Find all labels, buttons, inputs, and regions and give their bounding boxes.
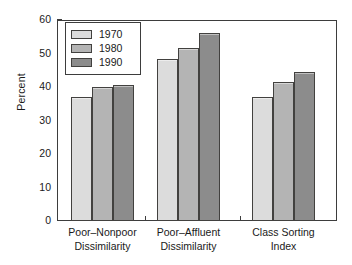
legend-swatch-1990 [71, 58, 92, 67]
bar-1990-group-1 [113, 85, 134, 221]
legend-swatch-1980 [71, 44, 92, 53]
bar-1980-group-3 [273, 82, 294, 221]
legend-swatch-1970 [71, 30, 92, 39]
legend-label-1990: 1990 [99, 57, 122, 68]
legend: 197019801990 [65, 22, 141, 75]
legend-item-1990: 1990 [71, 56, 135, 69]
legend-item-1980: 1980 [71, 42, 135, 55]
legend-item-1970: 1970 [71, 28, 135, 41]
bar-1990-group-3 [294, 72, 315, 221]
bar-1970-group-3 [252, 97, 273, 221]
legend-label-1970: 1970 [99, 29, 122, 40]
x-group-separator-tick-1 [145, 216, 146, 221]
bar-1970-group-2 [157, 59, 178, 221]
x-group-separator-tick-2 [240, 216, 241, 221]
bar-1970-group-1 [71, 97, 92, 221]
legend-label-1980: 1980 [99, 43, 122, 54]
bar-chart-figure: Percent 0102030405060 Poor–Nonpoor Dissi… [0, 0, 352, 265]
bar-1980-group-2 [178, 48, 199, 221]
bar-1980-group-1 [92, 87, 113, 221]
bar-1990-group-2 [199, 33, 220, 221]
x-category-label-3: Class Sorting Index [224, 226, 344, 253]
